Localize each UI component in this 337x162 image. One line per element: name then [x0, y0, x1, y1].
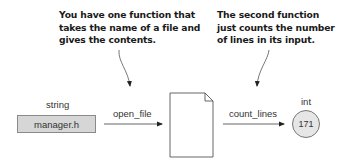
input-type-label: string [46, 99, 69, 110]
output-type-label: int [301, 96, 311, 107]
diagram-graphics [0, 0, 337, 162]
output-value-circle: 171 [292, 110, 320, 138]
leader-line-2 [257, 50, 269, 86]
function-label-open-file: open_file [113, 108, 152, 119]
output-value-text: 171 [298, 119, 313, 129]
document-icon [170, 93, 213, 157]
input-value-box: manager.h [17, 115, 96, 133]
input-value-text: manager.h [34, 119, 79, 130]
leader-line-1 [119, 50, 130, 86]
function-label-count-lines: count_lines [229, 108, 277, 119]
diagram-canvas: You have one function that takes the nam… [0, 0, 337, 162]
